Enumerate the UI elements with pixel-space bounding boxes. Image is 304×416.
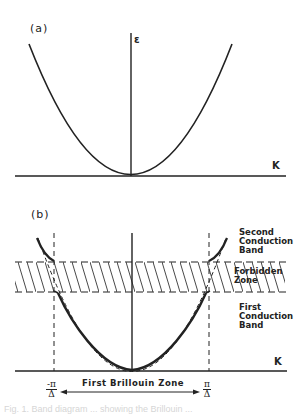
panel-a-label: (a): [30, 22, 48, 35]
right-boundary-label: π Δ: [203, 380, 211, 399]
figure-caption: Fig. 1. Band diagram ... showing the Bri…: [4, 404, 193, 414]
forbidden-zone-label: Forbidden Zone: [234, 267, 282, 285]
first-brillouin-zone-label: First Brillouin Zone: [82, 378, 184, 388]
first-conduction-band-label: First Conduction Band: [239, 303, 293, 330]
a-energy-axis-label: ε: [134, 34, 140, 45]
second-band-left: [37, 238, 54, 261]
second-conduction-band-label: Second Conduction Band: [239, 228, 293, 255]
a-k-axis-label: K: [272, 160, 280, 171]
zone-arrow-right-head: [193, 390, 200, 395]
panel-a: [15, 33, 286, 176]
panel-b-label: (b): [31, 208, 50, 221]
left-boundary-label: -π Δ: [46, 380, 57, 399]
b-k-axis-label: K: [274, 356, 282, 367]
zone-arrow-left-head: [60, 390, 67, 395]
